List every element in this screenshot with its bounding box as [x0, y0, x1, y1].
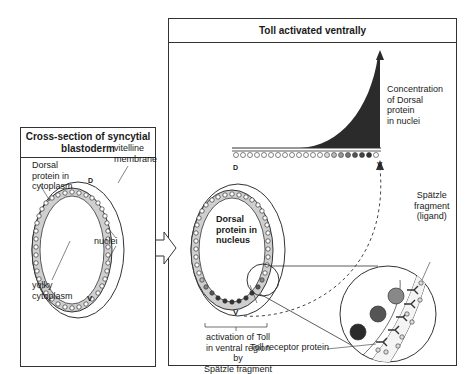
label-activation: activation of Toll in ventral region by … — [200, 332, 276, 374]
label-concentration: Concentration of Dorsal protein in nucle… — [387, 84, 443, 126]
label-dorsal-protein-cytoplasm: Dorsal protein in cytoplasm — [32, 160, 73, 192]
label-ventral-right: V — [233, 308, 238, 319]
label-toll-receptor: Toll receptor protein — [250, 342, 329, 353]
label-ventral-left: V — [87, 294, 92, 305]
label-dorsal-left: D — [88, 176, 93, 187]
label-dorsal-protein-nucleus: Dorsal protein in nucleus — [216, 214, 257, 246]
label-vitelline-membrane: vitelline membrane — [114, 143, 157, 164]
magnified-view — [327, 262, 436, 365]
dorsal-gradient-chart — [232, 50, 384, 158]
label-nuclei: nuclei — [94, 236, 118, 247]
label-dorsal-right: D — [233, 163, 238, 174]
arrow-right-icon — [156, 232, 176, 264]
label-yolky-cytoplasm: yolky cytoplasm — [32, 280, 73, 301]
label-gradient-ventral: V — [377, 160, 382, 171]
label-spatzle-fragment: Spätzle fragment (ligand) — [414, 190, 450, 222]
